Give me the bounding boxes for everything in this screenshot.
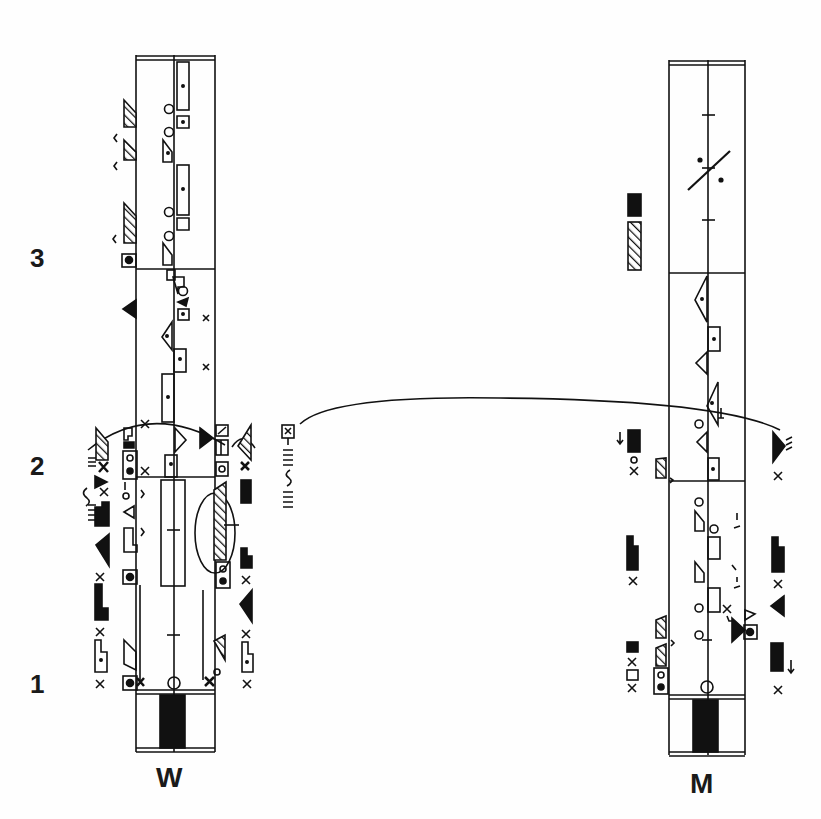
woman-right-signs <box>200 425 294 688</box>
staff-man <box>669 60 745 756</box>
man-right-signs <box>727 432 794 694</box>
woman-left-signs <box>84 100 145 690</box>
man-top-measure <box>628 115 730 270</box>
labanotation-score: 3 2 1 W M <box>0 0 821 819</box>
man-left-signs <box>617 430 674 694</box>
woman-support-column <box>141 62 209 689</box>
notation-drawing <box>0 0 821 819</box>
